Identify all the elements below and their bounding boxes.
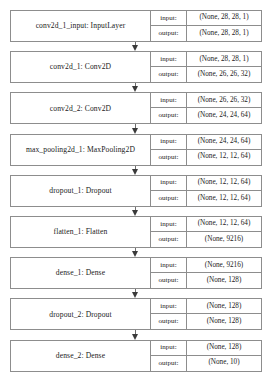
input-shape-row: input:(None, 28, 28, 1) [151, 52, 261, 67]
connector-arrow-flatten_1-to-dense_1 [135, 248, 137, 257]
output-shape-value: (None, 12, 12, 64) [187, 191, 261, 206]
input-shape-row: input:(None, 28, 28, 1) [151, 11, 261, 26]
output-shape-key: output: [151, 191, 187, 206]
input-shape-value: (None, 12, 12, 64) [187, 176, 261, 190]
layer-node-flatten_1[interactable]: flatten_1: Flatteninput:(None, 12, 12, 6… [10, 216, 262, 248]
input-shape-key: input: [151, 135, 187, 149]
input-shape-value: (None, 28, 28, 1) [187, 11, 261, 25]
input-shape-row: input:(None, 24, 24, 64) [151, 135, 261, 150]
output-shape-key: output: [151, 273, 187, 288]
input-shape-key: input: [151, 11, 187, 25]
layer-label-max_pooling2d_1: max_pooling2d_1: MaxPooling2D [11, 135, 151, 165]
output-shape-row: output:(None, 10) [151, 356, 261, 371]
shape-table-dropout_1: input:(None, 12, 12, 64)output:(None, 12… [151, 176, 261, 206]
layer-label-conv2d_2: conv2d_2: Conv2D [11, 93, 151, 123]
layer-node-dropout_1[interactable]: dropout_1: Dropoutinput:(None, 12, 12, 6… [10, 175, 262, 207]
input-shape-value: (None, 24, 24, 64) [187, 135, 261, 149]
input-shape-value: (None, 28, 28, 1) [187, 52, 261, 66]
input-shape-value: (None, 26, 26, 32) [187, 93, 261, 107]
input-shape-row: input:(None, 12, 12, 64) [151, 217, 261, 232]
input-shape-row: input:(None, 12, 12, 64) [151, 176, 261, 191]
connector-arrow-max_pooling2d_1-to-dropout_1 [135, 166, 137, 175]
input-shape-value: (None, 128) [187, 299, 261, 313]
layer-node-conv2d_2[interactable]: conv2d_2: Conv2Dinput:(None, 26, 26, 32)… [10, 92, 262, 124]
output-shape-row: output:(None, 128) [151, 314, 261, 329]
connector-arrow-dropout_1-to-flatten_1 [135, 207, 137, 216]
layer-node-dense_2[interactable]: dense_2: Denseinput:(None, 128)output:(N… [10, 340, 262, 372]
input-shape-row: input:(None, 9216) [151, 258, 261, 273]
model-architecture-diagram: conv2d_1_input: InputLayerinput:(None, 2… [0, 0, 273, 378]
layer-label-conv2d_1: conv2d_1: Conv2D [11, 52, 151, 82]
shape-table-conv2d_1_input: input:(None, 28, 28, 1)output:(None, 28,… [151, 11, 261, 41]
layer-label-flatten_1: flatten_1: Flatten [11, 217, 151, 247]
shape-table-dense_1: input:(None, 9216)output:(None, 128) [151, 258, 261, 288]
output-shape-row: output:(None, 26, 26, 32) [151, 67, 261, 82]
output-shape-key: output: [151, 150, 187, 165]
connector-arrow-dense_1-to-dropout_2 [135, 289, 137, 298]
layer-node-max_pooling2d_1[interactable]: max_pooling2d_1: MaxPooling2Dinput:(None… [10, 134, 262, 166]
shape-table-flatten_1: input:(None, 12, 12, 64)output:(None, 92… [151, 217, 261, 247]
input-shape-key: input: [151, 299, 187, 313]
layer-label-dropout_1: dropout_1: Dropout [11, 176, 151, 206]
layer-label-conv2d_1_input: conv2d_1_input: InputLayer [11, 11, 151, 41]
output-shape-value: (None, 10) [187, 356, 261, 371]
output-shape-value: (None, 12, 12, 64) [187, 150, 261, 165]
input-shape-row: input:(None, 128) [151, 341, 261, 356]
input-shape-key: input: [151, 217, 187, 231]
layer-label-dense_2: dense_2: Dense [11, 341, 151, 371]
output-shape-key: output: [151, 26, 187, 41]
output-shape-value: (None, 24, 24, 64) [187, 108, 261, 123]
connector-arrow-conv2d_2-to-max_pooling2d_1 [135, 124, 137, 133]
input-shape-row: input:(None, 26, 26, 32) [151, 93, 261, 108]
layer-node-dense_1[interactable]: dense_1: Denseinput:(None, 9216)output:(… [10, 257, 262, 289]
layer-node-dropout_2[interactable]: dropout_2: Dropoutinput:(None, 128)outpu… [10, 298, 262, 330]
layer-node-conv2d_1[interactable]: conv2d_1: Conv2Dinput:(None, 28, 28, 1)o… [10, 51, 262, 83]
input-shape-key: input: [151, 258, 187, 272]
output-shape-value: (None, 26, 26, 32) [187, 67, 261, 82]
connector-arrow-dropout_2-to-dense_2 [135, 330, 137, 339]
input-shape-value: (None, 12, 12, 64) [187, 217, 261, 231]
shape-table-dropout_2: input:(None, 128)output:(None, 128) [151, 299, 261, 329]
output-shape-key: output: [151, 67, 187, 82]
output-shape-value: (None, 128) [187, 273, 261, 288]
input-shape-value: (None, 9216) [187, 258, 261, 272]
input-shape-key: input: [151, 52, 187, 66]
input-shape-key: input: [151, 176, 187, 190]
output-shape-row: output:(None, 12, 12, 64) [151, 150, 261, 165]
output-shape-key: output: [151, 314, 187, 329]
layer-label-dropout_2: dropout_2: Dropout [11, 299, 151, 329]
output-shape-row: output:(None, 24, 24, 64) [151, 108, 261, 123]
layer-label-dense_1: dense_1: Dense [11, 258, 151, 288]
output-shape-key: output: [151, 108, 187, 123]
connector-arrow-conv2d_1-to-conv2d_2 [135, 83, 137, 92]
shape-table-dense_2: input:(None, 128)output:(None, 10) [151, 341, 261, 371]
input-shape-key: input: [151, 341, 187, 355]
input-shape-row: input:(None, 128) [151, 299, 261, 314]
connector-arrow-conv2d_1_input-to-conv2d_1 [135, 42, 137, 51]
output-shape-row: output:(None, 128) [151, 273, 261, 288]
output-shape-row: output:(None, 28, 28, 1) [151, 26, 261, 41]
output-shape-row: output:(None, 12, 12, 64) [151, 191, 261, 206]
output-shape-key: output: [151, 356, 187, 371]
shape-table-max_pooling2d_1: input:(None, 24, 24, 64)output:(None, 12… [151, 135, 261, 165]
layer-node-conv2d_1_input[interactable]: conv2d_1_input: InputLayerinput:(None, 2… [10, 10, 262, 42]
output-shape-value: (None, 128) [187, 314, 261, 329]
input-shape-value: (None, 128) [187, 341, 261, 355]
output-shape-key: output: [151, 232, 187, 247]
shape-table-conv2d_2: input:(None, 26, 26, 32)output:(None, 24… [151, 93, 261, 123]
input-shape-key: input: [151, 93, 187, 107]
output-shape-row: output:(None, 9216) [151, 232, 261, 247]
shape-table-conv2d_1: input:(None, 28, 28, 1)output:(None, 26,… [151, 52, 261, 82]
output-shape-value: (None, 28, 28, 1) [187, 26, 261, 41]
output-shape-value: (None, 9216) [187, 232, 261, 247]
